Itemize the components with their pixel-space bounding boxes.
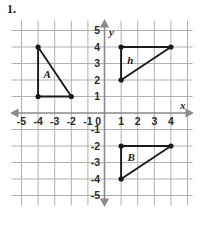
y-tick-label: 2 (94, 74, 100, 86)
y-axis-arrow-down (100, 198, 109, 207)
x-tick-label: 2 (135, 115, 141, 127)
triangle-label: h (127, 54, 133, 66)
y-tick-label: -4 (91, 173, 100, 185)
x-tick-label: -3 (50, 115, 59, 127)
y-tick-label: -5 (91, 189, 100, 201)
x-tick-label: -2 (67, 115, 76, 127)
x-tick-label: 4 (168, 115, 174, 127)
triangle-label: A (43, 68, 51, 80)
y-tick-label: -2 (91, 140, 100, 152)
y-tick-label: 1 (94, 90, 100, 102)
x-tick-label: 3 (151, 115, 157, 127)
x-tick-label: -4 (33, 115, 42, 127)
vertex-point (168, 44, 173, 49)
worksheet-problem-figure: 1. -5-4-3-2-10123454321-1-2-3-4-5 AhB xy (0, 0, 200, 225)
y-axis-label: y (107, 26, 114, 38)
y-tick-label: 3 (94, 57, 100, 69)
vertex-point (168, 143, 173, 148)
x-axis-arrow-right (185, 108, 194, 117)
coordinate-plane-graph: -5-4-3-2-10123454321-1-2-3-4-5 AhB xy (0, 0, 200, 225)
y-axis-arrow-up (100, 19, 109, 28)
vertex-point (119, 77, 124, 82)
y-tick-label: 4 (94, 41, 100, 53)
y-tick-label: -3 (91, 156, 100, 168)
vertex-point (36, 44, 41, 49)
x-axis-label: x (179, 99, 186, 111)
triangle-label: B (126, 151, 134, 163)
axis-name-labels: xy (107, 26, 186, 111)
vertex-point (119, 176, 124, 181)
x-tick-label: 1 (118, 115, 124, 127)
vertex-point (36, 94, 41, 99)
vertex-point (119, 143, 124, 148)
vertex-point (69, 94, 74, 99)
y-tick-label: -1 (91, 123, 100, 135)
y-tick-label: 5 (94, 24, 100, 36)
vertex-point (119, 44, 124, 49)
x-tick-label: -5 (17, 115, 26, 127)
